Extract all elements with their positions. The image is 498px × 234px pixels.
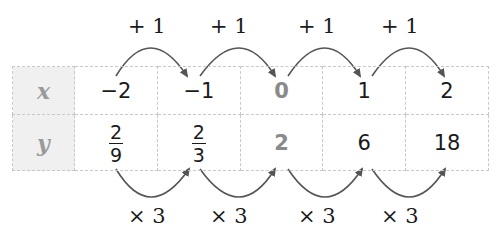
y-cell: 2 9 <box>75 115 158 171</box>
y-cell-highlight: 2 <box>240 115 323 171</box>
x-cell: −1 <box>157 67 240 115</box>
label-times-1: × 3 <box>128 204 166 228</box>
x-cell: −2 <box>75 67 158 115</box>
arrow-times-3 <box>288 169 362 197</box>
label-plus-2: + 1 <box>210 14 248 38</box>
x-cell: 2 <box>406 67 489 115</box>
label-plus-4: + 1 <box>381 14 419 38</box>
arrow-times-4 <box>372 169 445 197</box>
fraction: 2 3 <box>192 122 206 165</box>
row-header-x: x <box>13 67 75 115</box>
label-times-2: × 3 <box>210 204 248 228</box>
arrow-times-1 <box>116 169 189 197</box>
label-times-4: × 3 <box>381 204 419 228</box>
value-table: x −2 −1 0 1 2 y 2 9 2 3 2 6 18 <box>12 66 489 171</box>
table-row-y: y 2 9 2 3 2 6 18 <box>13 115 489 171</box>
table-row-x: x −2 −1 0 1 2 <box>13 67 489 115</box>
label-plus-3: + 1 <box>298 14 336 38</box>
denominator: 9 <box>110 145 122 165</box>
x-cell: 1 <box>323 67 406 115</box>
numerator: 2 <box>193 122 205 142</box>
fraction: 2 9 <box>109 122 123 165</box>
denominator: 3 <box>193 145 205 165</box>
y-cell: 2 3 <box>157 115 240 171</box>
arrow-times-2 <box>200 169 275 197</box>
row-header-y: y <box>13 115 75 171</box>
label-times-3: × 3 <box>298 204 336 228</box>
numerator: 2 <box>110 122 122 142</box>
x-cell-highlight: 0 <box>240 67 323 115</box>
y-cell: 6 <box>323 115 406 171</box>
label-plus-1: + 1 <box>128 14 166 38</box>
y-cell: 18 <box>406 115 489 171</box>
